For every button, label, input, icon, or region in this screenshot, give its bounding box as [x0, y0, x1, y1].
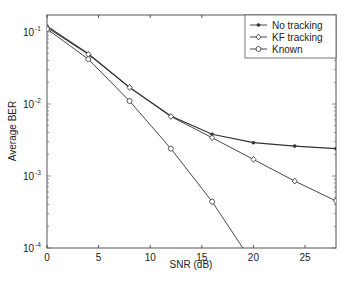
y-tick-labels: 10-110-210-310-4: [23, 25, 41, 254]
svg-text:-4: -4: [35, 241, 41, 248]
svg-text:25: 25: [299, 252, 311, 263]
svg-text:10: 10: [145, 252, 157, 263]
svg-text:10: 10: [23, 243, 35, 254]
svg-text:-2: -2: [35, 97, 41, 104]
svg-text:10: 10: [23, 27, 35, 38]
svg-text:20: 20: [248, 252, 260, 263]
svg-text:-1: -1: [35, 25, 41, 32]
legend: No trackingKF trackingKnown: [245, 15, 336, 58]
svg-text:10: 10: [23, 99, 35, 110]
svg-text:5: 5: [96, 252, 102, 263]
y-axis-label: Average BER: [7, 101, 18, 161]
x-axis-label: SNR (dB): [170, 259, 213, 270]
svg-text:0: 0: [44, 252, 50, 263]
legend-label: Known: [272, 44, 303, 55]
ber-chart: 0510152025 10-110-210-310-4 SNR (dB) Ave…: [0, 0, 356, 286]
legend-label: KF tracking: [272, 32, 323, 43]
svg-text:10: 10: [23, 171, 35, 182]
legend-label: No tracking: [272, 20, 323, 31]
svg-text:-3: -3: [35, 169, 41, 176]
